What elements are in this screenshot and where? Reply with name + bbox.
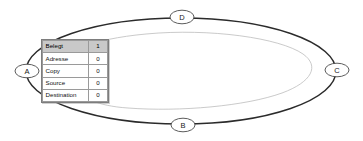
- node-a-label: A: [24, 67, 29, 76]
- table-row[interactable]: Copy 0: [43, 65, 108, 77]
- diagram-canvas: D C B A Belegt 1 Adresse: [0, 0, 363, 141]
- property-value: 0: [89, 89, 108, 101]
- node-d[interactable]: D: [170, 10, 194, 24]
- node-b[interactable]: B: [171, 118, 195, 132]
- property-name: Copy: [43, 65, 89, 77]
- node-b-label: B: [180, 121, 185, 130]
- table-row[interactable]: Belegt 1: [43, 41, 108, 53]
- table-row[interactable]: Adresse 0: [43, 53, 108, 65]
- property-name: Belegt: [43, 41, 89, 53]
- table-row[interactable]: Destination 0: [43, 89, 108, 101]
- node-a[interactable]: A: [15, 64, 39, 78]
- property-value: 0: [89, 77, 108, 89]
- node-c-label: C: [334, 66, 340, 75]
- property-value: 1: [89, 41, 108, 53]
- property-value: 0: [89, 53, 108, 65]
- property-name: Adresse: [43, 53, 89, 65]
- node-d-label: D: [179, 13, 185, 22]
- property-table[interactable]: Belegt 1 Adresse 0 Copy 0 Source 0 Desti…: [41, 39, 109, 103]
- property-name: Destination: [43, 89, 89, 101]
- property-name: Source: [43, 77, 89, 89]
- property-value: 0: [89, 65, 108, 77]
- table-row[interactable]: Source 0: [43, 77, 108, 89]
- property-table-grid: Belegt 1 Adresse 0 Copy 0 Source 0 Desti…: [42, 40, 108, 102]
- node-c[interactable]: C: [325, 63, 349, 77]
